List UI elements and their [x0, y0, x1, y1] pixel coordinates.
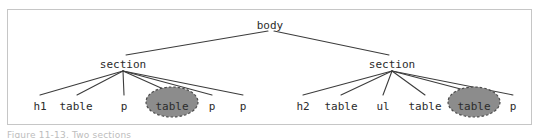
node-section-right: section [369, 58, 415, 71]
node-table-right-3-highlighted: table [457, 100, 490, 113]
node-table-right-1: table [324, 100, 357, 113]
figure-caption: Figure 11-13. Two sections [7, 130, 131, 138]
node-ul: ul [376, 100, 389, 113]
node-p-left-2: p [209, 100, 216, 113]
node-p-left-3: p [240, 100, 247, 113]
node-p-left-1: p [121, 100, 128, 113]
node-body: body [257, 19, 284, 32]
node-table-right-2: table [408, 100, 441, 113]
node-p-right-1: p [510, 100, 517, 113]
node-table-left-1: table [59, 100, 92, 113]
dom-tree-diagram: body section section h1 table p table p … [0, 0, 542, 138]
figure-caption-strip: Figure 11-13. Two sections [0, 129, 542, 138]
node-section-left: section [100, 58, 146, 71]
node-h1: h1 [33, 100, 46, 113]
node-h2: h2 [296, 100, 309, 113]
figure-root: body section section h1 table p table p … [0, 0, 542, 138]
node-table-left-2-highlighted: table [155, 100, 188, 113]
